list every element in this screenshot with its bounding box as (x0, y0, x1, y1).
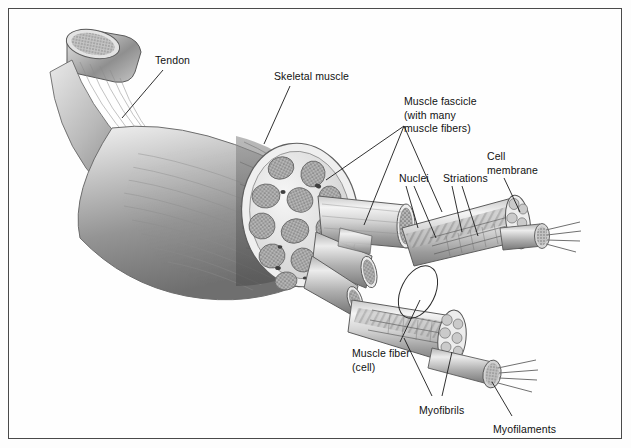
label-skeletal-muscle: Skeletal muscle (274, 70, 349, 84)
label-myofibrils: Myofibrils (419, 404, 464, 418)
label-muscle-fascicle: Muscle fascicle (with many muscle fibers… (404, 95, 477, 136)
figure-canvas: Tendon Skeletal muscle Muscle fascicle (… (0, 0, 631, 448)
label-nuclei: Nuclei (399, 172, 429, 186)
muscle-illustration (0, 0, 631, 448)
fiber-upper (402, 194, 581, 266)
label-striations: Striations (443, 172, 488, 186)
leader-skeletal (264, 86, 290, 144)
label-tendon: Tendon (155, 54, 190, 68)
label-muscle-fiber: Muscle fiber (cell) (352, 347, 410, 374)
label-cell-membrane: Cell membrane (487, 150, 538, 177)
filaments-lower (498, 360, 538, 392)
leader-fascicle-1 (326, 126, 404, 180)
label-myofilaments: Myofilaments (493, 423, 556, 437)
filaments-upper (546, 222, 581, 252)
leader-myofilaments (492, 382, 512, 416)
